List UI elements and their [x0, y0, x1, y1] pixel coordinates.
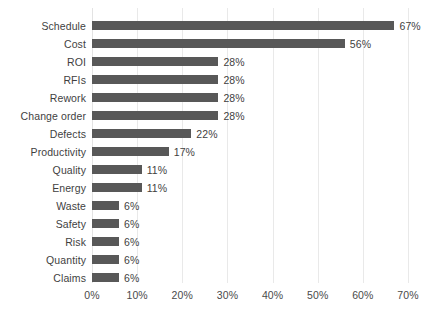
category-label: Quantity: [0, 251, 86, 269]
bar[interactable]: [92, 39, 345, 48]
category-label: RFIs: [0, 71, 86, 89]
bar[interactable]: [92, 147, 169, 156]
bar-value-label: 6%: [124, 269, 139, 287]
bar-row: Cost56%: [92, 35, 408, 53]
bar-value-label: 28%: [223, 71, 244, 89]
bar-row: Waste6%: [92, 197, 408, 215]
category-label: Claims: [0, 269, 86, 287]
bar-value-label: 6%: [124, 233, 139, 251]
bar-value-label: 11%: [147, 161, 168, 179]
bar-chart: Schedule67%Cost56%ROI28%RFIs28%Rework28%…: [0, 0, 440, 319]
bar[interactable]: [92, 21, 394, 30]
bar-row: Quantity6%: [92, 251, 408, 269]
x-axis-tick-label: 70%: [397, 288, 418, 302]
x-axis-tick-label: 10%: [126, 288, 147, 302]
bar[interactable]: [92, 255, 119, 264]
category-label: Productivity: [0, 143, 86, 161]
bar[interactable]: [92, 237, 119, 246]
bar-value-label: 11%: [147, 179, 168, 197]
bar-value-label: 28%: [223, 53, 244, 71]
bar-value-label: 22%: [196, 125, 217, 143]
bar[interactable]: [92, 183, 142, 192]
bar-row: RFIs28%: [92, 71, 408, 89]
bar-value-label: 56%: [350, 35, 371, 53]
bar-row: Energy11%: [92, 179, 408, 197]
x-axis-tick-label: 50%: [307, 288, 328, 302]
x-axis-ticks: 0%10%20%30%40%50%60%70%: [92, 288, 408, 308]
category-label: Safety: [0, 215, 86, 233]
x-axis-tick-label: 0%: [84, 288, 99, 302]
bar-row: Quality11%: [92, 161, 408, 179]
bar-value-label: 28%: [223, 107, 244, 125]
x-axis-tick-label: 40%: [262, 288, 283, 302]
gridline-70pct: [408, 8, 409, 283]
bar[interactable]: [92, 93, 218, 102]
category-label: Schedule: [0, 17, 86, 35]
category-label: Quality: [0, 161, 86, 179]
category-label: Energy: [0, 179, 86, 197]
bar-value-label: 6%: [124, 251, 139, 269]
bar-value-label: 6%: [124, 197, 139, 215]
bar[interactable]: [92, 201, 119, 210]
bar-row: Rework28%: [92, 89, 408, 107]
bar[interactable]: [92, 129, 191, 138]
bar-row: Change order28%: [92, 107, 408, 125]
bar-row: Defects22%: [92, 125, 408, 143]
bar[interactable]: [92, 57, 218, 66]
bar-row: Safety6%: [92, 215, 408, 233]
bar[interactable]: [92, 75, 218, 84]
category-label: ROI: [0, 53, 86, 71]
x-axis-tick-label: 30%: [217, 288, 238, 302]
category-label: Waste: [0, 197, 86, 215]
bar-value-label: 6%: [124, 215, 139, 233]
bar-row: Claims6%: [92, 269, 408, 287]
bar[interactable]: [92, 165, 142, 174]
bar-row: Productivity17%: [92, 143, 408, 161]
x-axis-tick-label: 20%: [172, 288, 193, 302]
bar-value-label: 28%: [223, 89, 244, 107]
category-label: Cost: [0, 35, 86, 53]
bar-value-label: 17%: [174, 143, 195, 161]
category-label: Defects: [0, 125, 86, 143]
bar-row: Schedule67%: [92, 17, 408, 35]
bar-row: ROI28%: [92, 53, 408, 71]
bar-value-label: 67%: [399, 17, 420, 35]
x-axis-tick-label: 60%: [352, 288, 373, 302]
category-label: Change order: [0, 107, 86, 125]
category-label: Risk: [0, 233, 86, 251]
bar[interactable]: [92, 273, 119, 282]
bar-row: Risk6%: [92, 233, 408, 251]
bar[interactable]: [92, 219, 119, 228]
bar-rows: Schedule67%Cost56%ROI28%RFIs28%Rework28%…: [92, 8, 408, 283]
plot-area: Schedule67%Cost56%ROI28%RFIs28%Rework28%…: [92, 8, 408, 283]
category-label: Rework: [0, 89, 86, 107]
bar[interactable]: [92, 111, 218, 120]
